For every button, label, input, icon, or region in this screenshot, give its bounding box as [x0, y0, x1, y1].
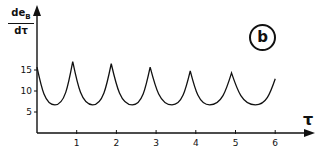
x-tick-label: 6: [272, 138, 278, 148]
x-tick-label: 1: [74, 138, 80, 148]
y-tick-label: 5: [26, 107, 32, 117]
series-line: [37, 62, 275, 105]
y-tick-label: 10: [21, 86, 33, 96]
y-label-numerator: de: [11, 7, 25, 18]
x-axis-arrow-icon: [304, 129, 315, 137]
y-label-denominator: dτ: [6, 24, 36, 36]
y-axis-label: deB dτ: [6, 8, 36, 36]
x-tick-label: 4: [193, 138, 199, 148]
panel-label-badge: b: [249, 24, 276, 51]
chart-plot: 51015 123456: [0, 0, 323, 156]
y-label-subscript: B: [25, 13, 30, 21]
x-tick-label: 5: [233, 138, 239, 148]
x-axis-label: τ: [303, 110, 313, 129]
y-ticks: 51015: [21, 65, 37, 117]
y-tick-label: 15: [21, 65, 32, 75]
x-tick-label: 2: [114, 138, 120, 148]
x-tick-label: 3: [153, 138, 159, 148]
